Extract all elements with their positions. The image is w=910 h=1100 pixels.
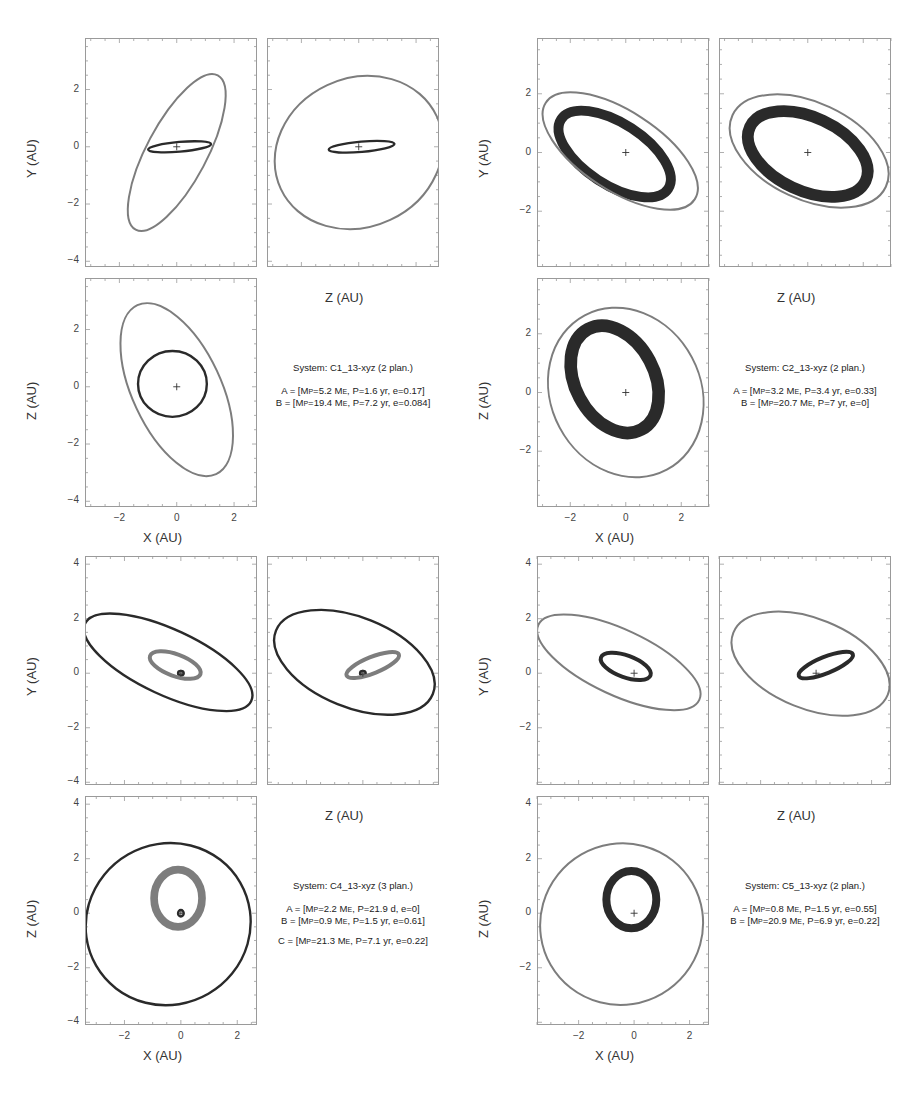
x-tick-label: 2 [225,1030,249,1041]
system-info: System: C1_13-xyz (2 plan.)A = [MP=5.2 M… [253,362,453,409]
y-axis-label: Y (AU) [476,657,491,696]
orbit-panel-xy [537,556,709,785]
y-tick-label: −2 [509,204,531,215]
system-info: System: C2_13-xyz (2 plan.)A = [MP=3.2 M… [705,362,905,409]
orbit-panel-xz [537,278,709,507]
x-tick-label: 0 [622,1030,646,1041]
z-axis-label-top-right: Z (AU) [325,808,363,823]
y-axis-label: Y (AU) [24,657,39,696]
planet-params: A = [MP=5.2 ME, P=1.6 yr, e=0.17] [253,385,453,397]
orbit-panel-zy [267,38,439,267]
z-axis-label: Z (AU) [476,900,491,938]
planet-params: B = [MP=20.9 ME, P=6.9 yr, e=0.22] [705,915,905,927]
orbit-panel-xz [85,796,257,1025]
y-tick-label: 0 [57,140,79,151]
y-tick-label: 2 [57,323,79,334]
z-axis-label: Z (AU) [24,382,39,420]
y-tick-label: −2 [57,197,79,208]
y-tick-label: −2 [509,444,531,455]
y-tick-label: −2 [509,961,531,972]
x-tick-label: 0 [169,1030,193,1041]
x-tick-label: −2 [567,1030,591,1041]
y-tick-label: 0 [509,386,531,397]
system-figure-2: −202−202−202Y (AU)Z (AU)X (AU)Z (AU)Syst… [452,0,892,520]
y-tick-label: 2 [509,852,531,863]
x-tick-label: −2 [112,1030,136,1041]
y-tick-label: 2 [509,327,531,338]
y-tick-label: 4 [57,557,79,568]
y-tick-label: 0 [509,906,531,917]
planet-params: B = [MP=0.9 ME, P=1.5 yr, e=0.61] [253,915,453,927]
system-title: System: C2_13-xyz (2 plan.) [705,362,905,373]
z-axis-label-top-right: Z (AU) [777,808,815,823]
orbit-panel-xy [85,556,257,785]
y-axis-label: Y (AU) [476,139,491,178]
system-info: System: C4_13-xyz (3 plan.)A = [MP=2.2 M… [253,880,453,947]
planet-params: B = [MP=20.7 ME, P=7 yr, e=0] [705,397,905,409]
z-axis-label: Z (AU) [24,900,39,938]
y-tick-label: 2 [509,612,531,623]
y-tick-label: 2 [509,87,531,98]
y-tick-label: −4 [57,494,79,505]
system-title: System: C5_13-xyz (2 plan.) [705,880,905,891]
y-tick-label: 2 [57,83,79,94]
y-tick-label: −2 [57,437,79,448]
y-tick-label: 0 [57,380,79,391]
y-tick-label: −2 [57,961,79,972]
orbit-panel-xy [537,38,709,267]
y-tick-label: −4 [57,775,79,786]
system-info: System: C5_13-xyz (2 plan.)A = [MP=0.8 M… [705,880,905,927]
z-axis-label-top-right: Z (AU) [325,290,363,305]
system-figure-3: −4−2024−4−2024−202Y (AU)Z (AU)X (AU)Z (A… [0,518,440,1038]
planet-params: B = [MP=19.4 ME, P=7.2 yr, e=0.084] [253,397,453,409]
orbit-panel-xz [85,278,257,507]
orbit-panel-xy [85,38,257,267]
planet-params: A = [MP=3.2 ME, P=3.4 yr, e=0.33] [705,385,905,397]
system-figure-1: −4−202−4−202−202Y (AU)Z (AU)X (AU)Z (AU)… [0,0,440,520]
y-tick-label: −4 [57,254,79,265]
y-tick-label: −2 [509,721,531,732]
z-axis-label-top-right: Z (AU) [777,290,815,305]
y-tick-label: 2 [57,612,79,623]
system-title: System: C1_13-xyz (2 plan.) [253,362,453,373]
y-tick-label: 0 [509,146,531,157]
y-tick-label: 0 [57,666,79,677]
planet-params: A = [MP=2.2 ME, P=21.9 d, e=0] [253,903,453,915]
y-tick-label: 4 [509,797,531,808]
orbit-panel-zy [267,556,439,785]
z-axis-label: Z (AU) [476,382,491,420]
x-tick-label: 2 [678,1030,702,1041]
orbit-panel-xz [537,796,709,1025]
y-tick-label: 0 [509,666,531,677]
y-tick-label: −2 [57,721,79,732]
system-figure-4: −2024−2024−202Y (AU)Z (AU)X (AU)Z (AU)Sy… [452,518,892,1038]
spacer [253,927,453,935]
x-axis-label: X (AU) [143,1048,182,1063]
y-axis-label: Y (AU) [24,139,39,178]
system-title: System: C4_13-xyz (3 plan.) [253,880,453,891]
y-tick-label: 0 [57,906,79,917]
x-axis-label: X (AU) [595,1048,634,1063]
planet-params: C = [MP=21.3 ME, P=7.1 yr, e=0.22] [253,935,453,947]
y-tick-label: 4 [509,557,531,568]
planet-params: A = [MP=0.8 ME, P=1.5 yr, e=0.55] [705,903,905,915]
y-tick-label: −4 [57,1015,79,1026]
orbit-panel-zy [719,38,891,267]
y-tick-label: 2 [57,852,79,863]
y-tick-label: 4 [57,797,79,808]
orbit-panel-zy [719,556,891,785]
